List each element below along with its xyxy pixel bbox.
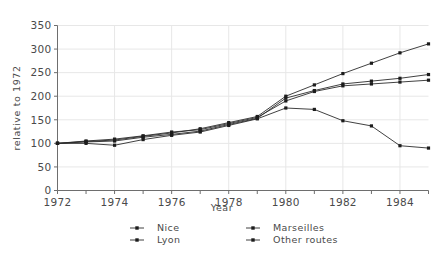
legend-label-other-routes: Other routes [273,234,338,245]
line-chart: 050100150200250300350 197219741976197819… [0,0,442,262]
y-tick-label: 250 [31,66,52,78]
x-axis-title: Year [210,202,234,213]
y-axis-title: relative to 1972 [11,65,22,150]
x-axis-ticks: 1972197419761978198019821984 [44,191,429,209]
series-point [427,146,430,149]
axis-lines [58,26,429,191]
series-point [370,80,373,83]
y-tick-label: 50 [38,161,52,173]
series-point [256,117,259,120]
legend-label-nice: Nice [157,222,179,233]
series-point [398,144,401,147]
series-point [370,124,373,127]
y-axis-ticks: 050100150200250300350 [31,19,58,196]
x-tick-label: 1982 [329,196,357,208]
chart-figure: 050100150200250300350 197219741976197819… [0,0,442,262]
series-point [170,134,173,137]
x-tick-label: 1974 [101,196,129,208]
series-point [227,124,230,127]
series-point [142,138,145,141]
legend-marker-point [135,226,138,229]
y-tick-label: 0 [45,184,52,196]
series-line-nice [58,44,429,143]
grid-lines [58,26,429,191]
series-point [113,138,116,141]
series-point [370,82,373,85]
series-point [199,130,202,133]
series-point [170,130,173,133]
series-line-marseilles [58,80,429,143]
series-point [284,99,287,102]
series-point [113,144,116,147]
series-point [427,42,430,45]
y-tick-label: 350 [31,19,52,31]
series-point [398,80,401,83]
series-point [313,90,316,93]
series-point [427,73,430,76]
legend-label-lyon: Lyon [157,234,180,245]
legend-marker-point [251,226,254,229]
series-point [284,106,287,109]
x-axis-label: Year [210,202,234,213]
series-point [427,79,430,82]
series-point [142,134,145,137]
x-tick-label: 1976 [158,196,186,208]
y-tick-label: 150 [31,114,52,126]
series-point [313,108,316,111]
legend-marker-point [135,238,138,241]
series-point [398,51,401,54]
x-tick-label: 1984 [386,196,414,208]
series-point [56,142,59,145]
legend-marker-point [251,238,254,241]
series-point [370,62,373,65]
x-tick-label: 1980 [272,196,300,208]
series-point [341,119,344,122]
legend-label-marseilles: Marseilles [273,222,324,233]
chart-legend: NiceLyonMarseillesOther routes [130,222,338,245]
series-point [313,83,316,86]
series-point [84,142,87,145]
x-tick-label: 1972 [44,196,72,208]
series-point [284,97,287,100]
y-tick-label: 200 [31,90,52,102]
series-point [341,72,344,75]
y-axis-label: relative to 1972 [11,65,22,150]
y-tick-label: 100 [31,137,52,149]
y-tick-label: 300 [31,43,52,55]
series-point [398,77,401,80]
series-point [341,84,344,87]
